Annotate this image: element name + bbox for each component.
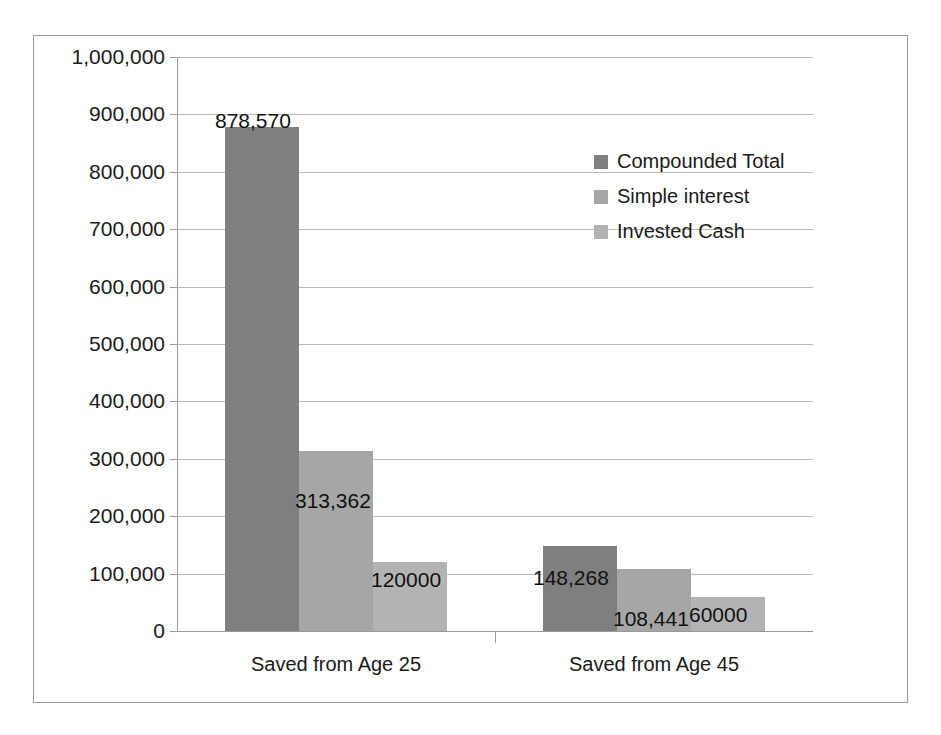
y-axis-tick xyxy=(170,287,177,288)
y-axis-tick-label: 800,000 xyxy=(35,160,165,184)
category-divider xyxy=(495,631,496,643)
legend-label: Invested Cash xyxy=(617,220,745,243)
y-axis-tick xyxy=(170,574,177,575)
bar xyxy=(225,127,299,631)
legend-item: Compounded Total xyxy=(594,144,785,179)
data-label: 878,570 xyxy=(215,109,291,133)
legend-item: Invested Cash xyxy=(594,214,785,249)
y-axis-tick xyxy=(170,516,177,517)
y-axis-tick xyxy=(170,229,177,230)
y-axis-tick-label: 1,000,000 xyxy=(35,45,165,69)
legend-item: Simple interest xyxy=(594,179,785,214)
data-label: 60000 xyxy=(689,603,747,627)
legend-swatch-icon xyxy=(594,225,608,239)
y-axis-tick xyxy=(170,631,177,632)
y-axis-tick-label: 100,000 xyxy=(35,562,165,586)
data-label: 313,362 xyxy=(295,489,371,513)
legend-swatch-icon xyxy=(594,155,608,169)
bar xyxy=(299,451,373,631)
data-label: 120000 xyxy=(371,568,441,592)
y-axis-tick xyxy=(170,401,177,402)
category-label: Saved from Age 45 xyxy=(495,653,813,676)
category-label: Saved from Age 25 xyxy=(177,653,495,676)
y-axis-tick xyxy=(170,172,177,173)
y-axis-tick-label: 400,000 xyxy=(35,389,165,413)
y-axis-tick xyxy=(170,459,177,460)
legend-label: Simple interest xyxy=(617,185,749,208)
y-axis-tick-label: 300,000 xyxy=(35,447,165,471)
y-axis-tick xyxy=(170,114,177,115)
chart-legend: Compounded TotalSimple interestInvested … xyxy=(594,144,785,249)
y-axis-tick-label: 200,000 xyxy=(35,504,165,528)
gridline xyxy=(177,57,813,58)
y-axis-tick xyxy=(170,344,177,345)
y-axis-tick-label: 500,000 xyxy=(35,332,165,356)
y-axis-tick-label: 700,000 xyxy=(35,217,165,241)
data-label: 148,268 xyxy=(533,566,609,590)
legend-swatch-icon xyxy=(594,190,608,204)
y-axis-tick-label: 600,000 xyxy=(35,275,165,299)
chart-frame: 1,000,000900,000800,000700,000600,000500… xyxy=(33,35,908,703)
legend-label: Compounded Total xyxy=(617,150,785,173)
y-axis-tick-label: 900,000 xyxy=(35,102,165,126)
data-label: 108,441 xyxy=(613,607,689,631)
y-axis-tick xyxy=(170,57,177,58)
y-axis-tick-label: 0 xyxy=(35,619,165,643)
